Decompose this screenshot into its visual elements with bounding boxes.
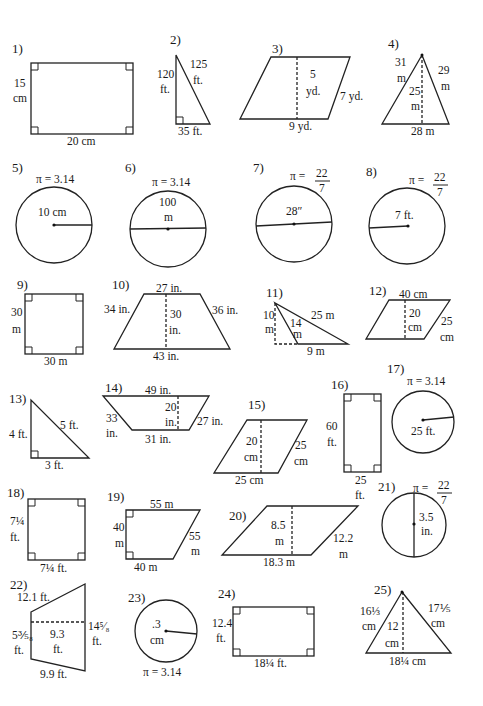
height-unit-label: ft. bbox=[53, 643, 63, 655]
center-dot bbox=[412, 522, 415, 525]
center-dot bbox=[421, 418, 424, 421]
problem-number: 24) bbox=[218, 586, 235, 601]
right-side-label: 55 bbox=[189, 530, 201, 542]
top-label: 40 cm bbox=[399, 288, 427, 300]
height-label: 20 bbox=[165, 401, 177, 413]
base-label: 28 m bbox=[411, 125, 434, 137]
center-dot bbox=[292, 222, 295, 225]
left-side-label: 40 bbox=[113, 521, 125, 533]
height-unit-label: in. bbox=[169, 324, 181, 336]
bottom-base-label: 9.9 ft. bbox=[40, 668, 67, 680]
top-base-label: 12.1 ft. bbox=[17, 591, 50, 603]
trapezoid-shape bbox=[114, 294, 230, 349]
diameter-label: 100 bbox=[159, 196, 177, 208]
long-side-label: 25 m bbox=[311, 309, 334, 321]
right-angle-marks bbox=[25, 294, 83, 354]
problem-number: 2) bbox=[170, 32, 181, 47]
pi-denominator: 7 bbox=[441, 494, 447, 506]
base-label: 35 ft. bbox=[178, 125, 202, 137]
height-unit-label: ft. bbox=[160, 83, 170, 95]
height-unit-label: cm bbox=[408, 321, 422, 333]
side-unit-label: cm bbox=[13, 92, 27, 104]
bottom-base-label: 43 in. bbox=[153, 350, 179, 362]
height-label: 120 bbox=[157, 68, 175, 80]
problem-number: 4) bbox=[388, 36, 399, 51]
base-label: 18¼ cm bbox=[389, 655, 426, 667]
left-side-label: 34 in. bbox=[104, 303, 130, 315]
problem-16: 16) 60 ft. 25 ft. bbox=[326, 377, 381, 501]
square-shape bbox=[25, 294, 83, 354]
base-unit-label: ft. bbox=[355, 489, 365, 501]
problem-25: 25) 16⅓ cm 17⅕ cm 12 cm 18¼ cm bbox=[360, 582, 451, 667]
rectangle-shape bbox=[344, 394, 381, 472]
right-side-unit-label: ft. bbox=[92, 635, 102, 647]
problem-number: 13) bbox=[9, 391, 26, 406]
radius-label: 3.5 bbox=[419, 511, 434, 523]
radius-line bbox=[369, 226, 408, 228]
problem-number: 3) bbox=[272, 41, 283, 56]
side-unit-label: m bbox=[339, 548, 348, 560]
problem-6: 6) π = 3.14 100 m bbox=[125, 160, 206, 267]
center-dot bbox=[166, 227, 169, 230]
right-side-label: 27 in. bbox=[197, 415, 223, 427]
right-side-label: 36 in. bbox=[212, 304, 238, 316]
side-unit-label: cm bbox=[440, 331, 454, 343]
pi-label: π = bbox=[413, 482, 428, 494]
problem-1: 1) 15 cm 20 cm bbox=[12, 41, 133, 147]
rectangle-shape bbox=[31, 63, 133, 134]
radius-unit-label: cm bbox=[150, 634, 164, 646]
side-unit-label: ft. bbox=[327, 436, 337, 448]
problem-13: 13) 4 ft. 5 ft. 3 ft. bbox=[9, 391, 89, 471]
right-side-unit-label: cm bbox=[431, 617, 445, 629]
height-label: 20 bbox=[409, 307, 421, 319]
problem-10: 10) 27 in. 34 in. 30 in. 36 in. 43 in. bbox=[104, 277, 238, 362]
side-label: 7¼ bbox=[10, 515, 25, 527]
problem-number: 22) bbox=[10, 577, 27, 592]
radius-label: 7 ft. bbox=[395, 209, 414, 221]
height-label: 9.3 bbox=[50, 628, 65, 640]
base-label: 20 cm bbox=[67, 135, 95, 147]
right-side-label: 14⁵⁄₈ bbox=[88, 620, 109, 632]
center-dot bbox=[164, 629, 167, 632]
worksheet-canvas: 1) 15 cm 20 cm 2) 120 ft. 125 ft. 35 ft.… bbox=[0, 0, 483, 706]
right-angle-mark bbox=[176, 117, 183, 124]
problem-number: 15) bbox=[248, 397, 265, 412]
height-label: 5 bbox=[310, 68, 316, 80]
left-side-label: 31 bbox=[395, 56, 407, 68]
side-label: 12.4 bbox=[212, 617, 232, 629]
left-side-unit-label: ft. bbox=[14, 644, 24, 656]
problem-24: 24) 12.4 ft. 18¼ ft. bbox=[212, 586, 314, 669]
parallelogram-shape bbox=[240, 57, 350, 119]
apex-dot bbox=[401, 591, 404, 594]
problem-number: 10) bbox=[112, 277, 129, 292]
problem-11: 11) 10 m 14 m 25 m 9 m bbox=[263, 285, 348, 357]
radius-label: 25 ft. bbox=[411, 425, 435, 437]
left-side-unit-label: cm bbox=[362, 620, 376, 632]
base-label: 30 m bbox=[44, 355, 67, 367]
right-side-unit-label: m bbox=[191, 545, 200, 557]
problem-22: 22) 12.1 ft. 5⅗₈ ft. 9.3 ft. 14⁵⁄₈ ft. 9… bbox=[10, 577, 109, 680]
left-side-label: 5⅗₈ bbox=[12, 629, 33, 641]
height-label: 12 bbox=[387, 620, 399, 632]
base-label: 3 ft. bbox=[45, 459, 64, 471]
height-unit-label: yd. bbox=[306, 85, 321, 98]
problem-number: 8) bbox=[366, 164, 377, 179]
diameter-unit-label: m bbox=[164, 211, 173, 223]
top-base-label: 55 m bbox=[150, 498, 173, 510]
height-label: 20 bbox=[246, 435, 258, 447]
height-label: 10 bbox=[263, 309, 275, 321]
bottom-base-label: 40 m bbox=[134, 561, 157, 573]
height-unit-label: m bbox=[411, 100, 420, 112]
problem-8: 8) π = 22 7 7 ft. bbox=[366, 164, 448, 264]
problem-number: 5) bbox=[12, 160, 23, 175]
height-label: 30 bbox=[170, 308, 182, 320]
problem-number: 21) bbox=[378, 479, 395, 494]
diameter-label: 28″ bbox=[286, 205, 303, 217]
problem-number: 16) bbox=[331, 377, 348, 392]
problem-3: 3) 5 yd. 7 yd. 9 yd. bbox=[240, 41, 363, 133]
problem-number: 7) bbox=[253, 160, 264, 175]
side-label: 25 bbox=[441, 315, 453, 327]
side-unit-label: m bbox=[293, 328, 302, 340]
problem-number: 12) bbox=[369, 283, 386, 298]
problem-number: 23) bbox=[128, 590, 145, 605]
